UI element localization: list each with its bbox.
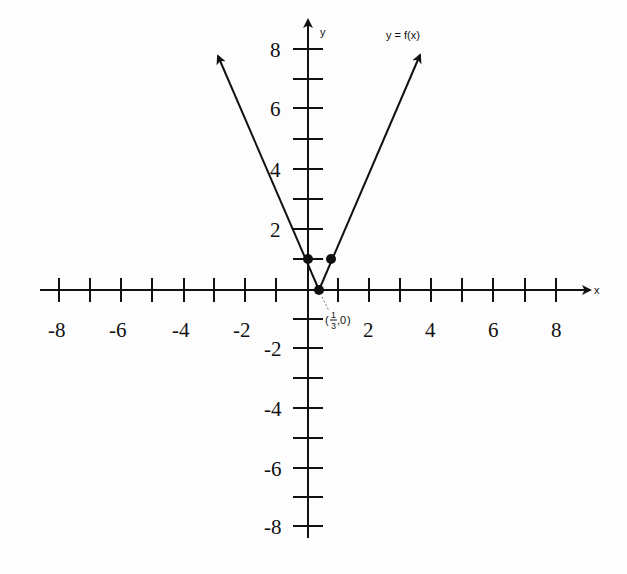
svg-text:6: 6: [488, 318, 499, 342]
svg-text:4: 4: [425, 318, 436, 342]
vertex-leader-line: [322, 297, 329, 311]
coordinate-plane: -8 -6 -4 -2 2 4 6 8 8 6 4 2 -2 -4 -6 -8 …: [0, 0, 627, 574]
svg-text:-8: -8: [264, 515, 282, 539]
graph-figure: -8 -6 -4 -2 2 4 6 8 8 6 4 2 -2 -4 -6 -8 …: [0, 0, 627, 574]
point-two-thirds-1: [326, 254, 336, 264]
point-vertex: [314, 285, 324, 295]
svg-text:-6: -6: [109, 318, 127, 342]
svg-text:0: 0: [340, 314, 346, 326]
svg-text:-2: -2: [233, 318, 251, 342]
svg-text:-8: -8: [48, 318, 66, 342]
y-axis-label: y: [320, 26, 326, 38]
function-graph: [218, 55, 420, 290]
svg-text:8: 8: [270, 38, 281, 62]
svg-text:-2: -2: [264, 337, 282, 361]
svg-text:(: (: [325, 314, 329, 326]
x-tick-labels: -8 -6 -4 -2 2 4 6 8: [48, 318, 562, 342]
function-label: y = f(x): [386, 29, 420, 41]
point-0-1: [303, 254, 313, 264]
y-tick-labels: 8 6 4 2 -2 -4 -6 -8: [264, 38, 282, 539]
svg-text:-4: -4: [264, 397, 282, 421]
svg-text:3: 3: [331, 321, 336, 331]
svg-text:2: 2: [363, 318, 374, 342]
x-axis-label: x: [594, 284, 600, 296]
svg-text:8: 8: [551, 318, 562, 342]
svg-text:2: 2: [270, 218, 281, 242]
svg-text:-6: -6: [264, 457, 282, 481]
svg-text:6: 6: [270, 97, 281, 121]
svg-text:): ): [347, 314, 351, 326]
svg-text:-4: -4: [172, 318, 190, 342]
svg-text:1: 1: [331, 310, 336, 320]
vertex-label: ( 1 3 , 0 ): [325, 310, 351, 331]
